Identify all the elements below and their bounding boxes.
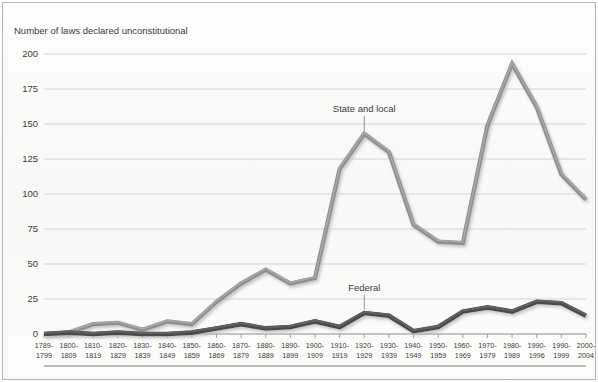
x-tick-label-5-line0: 1840-	[158, 341, 177, 350]
x-tick-label-11-line0: 1900-	[306, 341, 325, 350]
x-tick-label-1-line0: 1800-	[59, 341, 78, 350]
x-tick-label-10-line0: 1890-	[281, 341, 300, 350]
x-tick-label-19-line0: 1980-	[503, 341, 522, 350]
x-tick-label-group-10: 1890-1899	[281, 341, 300, 360]
x-tick-label-group-6: 1850-1859	[183, 341, 202, 360]
series-annotation-label-0: State and local	[333, 103, 396, 114]
x-tick-label-group-8: 1870-1879	[232, 341, 251, 360]
x-tick-label-20-line1: 1996	[529, 351, 545, 360]
x-tick-label-group-18: 1970-1979	[478, 341, 497, 360]
x-tick-label-group-19: 1980-1989	[503, 341, 522, 360]
x-tick-label-16-line0: 1950-	[429, 341, 448, 350]
series-line-base-0	[44, 64, 586, 334]
x-tick-label-4-line0: 1830-	[133, 341, 152, 350]
y-tick-label-50: 50	[27, 258, 38, 269]
x-tick-label-6-line1: 1859	[184, 351, 200, 360]
y-tick-label-150: 150	[22, 118, 38, 129]
x-tick-label-16-line1: 1959	[430, 351, 446, 360]
x-tick-label-2-line0: 1810-	[84, 341, 103, 350]
x-tick-label-4-line1: 1839	[135, 351, 151, 360]
x-tick-label-8-line1: 1879	[233, 351, 249, 360]
x-tick-label-0-line1: 1799	[36, 351, 52, 360]
x-tick-label-18-line0: 1970-	[478, 341, 497, 350]
gridlines-group	[44, 54, 586, 299]
x-tick-label-13-line0: 1920-	[355, 341, 374, 350]
y-tick-label-125: 125	[22, 153, 38, 164]
series-group	[44, 63, 586, 334]
x-tick-label-group-5: 1840-1849	[158, 341, 177, 360]
x-tick-label-7-line1: 1869	[208, 351, 224, 360]
x-tick-label-group-11: 1900-1909	[306, 341, 325, 360]
x-tick-label-22-line1: 2004	[578, 351, 594, 360]
y-tick-label-200: 200	[22, 48, 38, 59]
x-tick-label-22-line0: 2000-	[577, 341, 596, 350]
x-tick-label-19-line1: 1989	[504, 351, 520, 360]
x-tick-label-group-16: 1950-1959	[429, 341, 448, 360]
x-tick-label-group-22: 2000-2004	[577, 341, 596, 360]
series-line-base-1	[44, 302, 586, 334]
y-axis-title: Number of laws declared unconstitutional	[14, 25, 188, 36]
x-tick-label-6-line0: 1850-	[183, 341, 202, 350]
x-tick-label-group-13: 1920-1929	[355, 341, 374, 360]
x-tick-label-group-12: 1910-1919	[330, 341, 349, 360]
x-tick-label-17-line0: 1960-	[454, 341, 473, 350]
x-tick-label-3-line0: 1820-	[109, 341, 128, 350]
x-tick-label-15-line0: 1940-	[404, 341, 423, 350]
y-tick-label-75: 75	[27, 223, 38, 234]
y-tick-label-0: 0	[33, 328, 38, 339]
x-tick-label-group-1: 1800-1809	[59, 341, 78, 360]
x-tick-label-13-line1: 1929	[356, 351, 372, 360]
x-tick-label-9-line0: 1880-	[257, 341, 276, 350]
y-tick-label-25: 25	[27, 293, 38, 304]
series-federal	[44, 301, 586, 334]
chart-plot-area: 0255075100125150175200 1789-17991800-180…	[0, 0, 598, 382]
x-tick-label-5-line1: 1849	[159, 351, 175, 360]
x-tick-label-7-line0: 1860-	[207, 341, 226, 350]
x-tick-label-17-line1: 1969	[455, 351, 471, 360]
x-tick-label-21-line0: 1990-	[552, 341, 571, 350]
x-tick-label-3-line1: 1829	[110, 351, 126, 360]
series-annotation-label-1: Federal	[348, 282, 380, 293]
x-tick-label-21-line1: 1999	[553, 351, 569, 360]
series-line-highlight-1	[44, 301, 586, 333]
x-tick-label-10-line1: 1899	[282, 351, 298, 360]
x-axis-tick-labels: 1789-17991800-18091810-18191820-18291830…	[35, 341, 596, 360]
x-tick-label-8-line0: 1870-	[232, 341, 251, 350]
x-tick-label-15-line1: 1949	[406, 351, 422, 360]
x-tick-label-20-line0: 1990-	[528, 341, 547, 350]
series-state-and-local	[44, 63, 586, 334]
x-tick-label-group-14: 1930-1939	[380, 341, 399, 360]
x-tick-label-group-7: 1860-1869	[207, 341, 226, 360]
chart-figure: 0255075100125150175200 1789-17991800-180…	[0, 0, 598, 382]
x-tick-label-12-line1: 1919	[332, 351, 348, 360]
x-tick-label-group-0: 1789-1799	[35, 341, 54, 360]
series-line-highlight-0	[44, 63, 586, 333]
x-tick-label-18-line1: 1979	[479, 351, 495, 360]
y-tick-label-100: 100	[22, 188, 38, 199]
x-tick-label-14-line1: 1939	[381, 351, 397, 360]
x-tick-label-group-2: 1810-1819	[84, 341, 103, 360]
x-tick-label-group-17: 1960-1969	[454, 341, 473, 360]
x-tick-label-group-21: 1990-1999	[552, 341, 571, 360]
line-chart-svg: 0255075100125150175200 1789-17991800-180…	[0, 0, 598, 382]
x-tick-label-9-line1: 1889	[258, 351, 274, 360]
x-tick-label-group-9: 1880-1889	[257, 341, 276, 360]
x-tick-label-group-4: 1830-1839	[133, 341, 152, 360]
x-tick-label-group-20: 1990-1996	[528, 341, 547, 360]
x-tick-label-group-3: 1820-1829	[109, 341, 128, 360]
x-tick-label-14-line0: 1930-	[380, 341, 399, 350]
y-axis-tick-labels: 0255075100125150175200	[22, 48, 38, 339]
x-tick-label-12-line0: 1910-	[330, 341, 349, 350]
y-tick-label-175: 175	[22, 83, 38, 94]
x-tick-label-0-line0: 1789-	[35, 341, 54, 350]
x-tick-label-group-15: 1940-1949	[404, 341, 423, 360]
x-tick-label-2-line1: 1819	[85, 351, 101, 360]
x-tick-label-11-line1: 1909	[307, 351, 323, 360]
x-tick-label-1-line1: 1809	[61, 351, 77, 360]
